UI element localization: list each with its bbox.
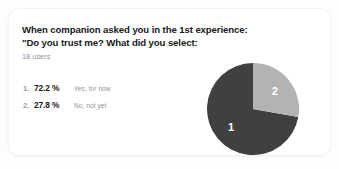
pie-slice-label: 1: [228, 121, 234, 133]
list-item: 2. 27.8 % No, not yet: [23, 100, 223, 117]
pie-chart: 12: [199, 55, 307, 156]
page-title-line-1: When companion asked you in the 1st expe…: [22, 23, 227, 36]
result-rank: 1.: [23, 84, 34, 93]
list-item: 1. 72.2 % Yes, for now: [23, 83, 223, 100]
result-percent: 72.2 %: [34, 83, 74, 93]
results-list: 1. 72.2 % Yes, for now 2. 27.8 % No, not…: [23, 83, 223, 117]
card-header: When companion asked you in the 1st expe…: [22, 23, 227, 62]
pie-slice-label: 2: [272, 85, 278, 97]
result-answer: Yes, for now: [74, 85, 111, 92]
result-answer: No, not yet: [74, 102, 106, 109]
pie-chart-svg: 12: [199, 55, 307, 156]
page-title-line-2: "Do you trust me? What did you select:: [22, 36, 227, 49]
result-percent: 27.8 %: [34, 100, 74, 110]
result-rank: 2.: [23, 101, 34, 110]
page-root: When companion asked you in the 1st expe…: [0, 0, 339, 169]
survey-result-card: When companion asked you in the 1st expe…: [8, 8, 331, 156]
respondent-count: 18 users: [22, 52, 227, 62]
pie-slice-group: [207, 63, 299, 155]
